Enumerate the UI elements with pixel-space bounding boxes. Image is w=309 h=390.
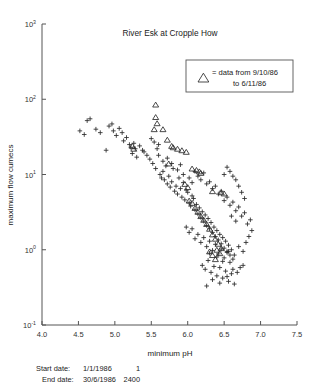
data-point-plus [212, 225, 217, 230]
data-point-plus [150, 161, 155, 166]
data-point-plus [248, 218, 253, 223]
x-tick-label: 7.5 [292, 330, 302, 339]
chart-figure: 4.04.55.05.56.06.57.07.5 10310210110010-… [0, 0, 309, 390]
data-point-plus [231, 200, 236, 205]
data-point-plus [232, 253, 237, 258]
data-point-plus [145, 153, 150, 158]
data-point-plus [117, 126, 122, 131]
data-point-plus [223, 239, 228, 244]
data-point-plus [149, 136, 154, 141]
end-record-value: 2400 [124, 375, 140, 384]
data-point-plus [199, 240, 204, 245]
data-point-plus [172, 189, 177, 194]
data-point-plus [203, 267, 208, 272]
data-point-plus [234, 219, 239, 224]
data-point-plus [209, 270, 214, 275]
data-point-triangle [160, 127, 166, 132]
data-point-plus [155, 146, 160, 151]
data-point-plus [161, 159, 166, 164]
data-point-triangle [189, 166, 195, 171]
data-point-plus [190, 180, 195, 185]
data-point-plus [130, 151, 135, 156]
end-date-value: 30/6/1986 [83, 375, 116, 384]
x-tick-label: 6.5 [219, 330, 229, 339]
series-triangle [129, 102, 227, 262]
data-point-plus [178, 162, 183, 167]
data-point-plus [78, 129, 83, 134]
data-series [78, 102, 255, 288]
data-point-triangle [209, 189, 215, 194]
data-point-plus [229, 214, 234, 219]
data-point-plus [169, 179, 174, 184]
chart-title: River Esk at Cropple How [123, 28, 219, 38]
data-point-plus [220, 276, 225, 281]
data-point-plus [178, 186, 183, 191]
data-point-plus [210, 277, 215, 282]
data-point-plus [207, 239, 212, 244]
x-axis-label: minimum pH [148, 349, 193, 358]
y-axis-ticks: 10310210110010-1 [23, 19, 46, 331]
data-point-plus [187, 230, 192, 235]
y-tick-label: 100 [25, 244, 36, 255]
data-point-plus [171, 166, 176, 171]
data-point-plus [244, 240, 249, 245]
data-point-plus [225, 274, 230, 279]
data-point-plus [174, 184, 179, 189]
data-point-plus [153, 166, 158, 171]
data-point-plus [204, 244, 209, 249]
end-date-label: End date: [42, 375, 74, 384]
data-point-plus [247, 234, 252, 239]
data-point-plus [217, 232, 222, 237]
data-point-plus [165, 182, 170, 187]
data-point-plus [94, 127, 99, 132]
data-point-plus [82, 132, 87, 137]
data-point-plus [213, 184, 218, 189]
data-point-plus [229, 271, 234, 276]
scatter-plot: 4.04.55.05.56.06.57.07.5 10310210110010-… [0, 0, 309, 390]
data-point-plus [242, 210, 247, 215]
x-axis-ticks: 4.04.55.05.56.06.57.07.5 [37, 321, 302, 339]
data-point-plus [215, 274, 220, 279]
data-point-plus [226, 243, 231, 248]
data-point-plus [175, 192, 180, 197]
data-point-triangle [151, 127, 157, 132]
start-date-label: Start date: [36, 364, 70, 373]
data-point-plus [166, 174, 171, 179]
data-point-plus [236, 244, 241, 249]
y-tick-label: 10-1 [23, 320, 36, 331]
data-point-plus [217, 265, 222, 270]
data-point-plus [228, 203, 233, 208]
legend: = data from 9/10/86 to 6/11/86 [186, 60, 293, 92]
data-point-triangle [170, 145, 176, 150]
data-point-plus [222, 172, 227, 177]
data-point-plus [250, 228, 255, 233]
data-point-plus [231, 174, 236, 179]
data-point-plus [204, 182, 209, 187]
data-point-plus [231, 257, 236, 262]
data-point-plus [168, 185, 173, 190]
data-point-plus [184, 225, 189, 230]
data-point-plus [107, 124, 112, 129]
y-tick-label: 101 [25, 169, 36, 180]
data-point-plus [238, 265, 243, 270]
data-point-plus [111, 129, 116, 134]
x-tick-label: 5.0 [110, 330, 120, 339]
data-point-plus [236, 205, 241, 210]
data-point-plus [207, 179, 212, 184]
data-point-plus [212, 264, 217, 269]
data-point-plus [228, 169, 233, 174]
data-point-plus [148, 157, 153, 162]
footer-notes: Start date: 1/1/1986 1 End date: 30/6/19… [36, 364, 140, 384]
x-tick-label: 6.0 [182, 330, 192, 339]
data-point-plus [110, 122, 115, 127]
start-date-value: 1/1/1986 [83, 364, 112, 373]
data-point-plus [241, 249, 246, 254]
data-point-plus [239, 214, 244, 219]
data-point-plus [204, 284, 209, 289]
data-point-plus [190, 226, 195, 231]
data-point-plus [134, 155, 139, 160]
legend-line-2: to 6/11/86 [233, 79, 266, 88]
y-tick-label: 102 [25, 94, 36, 105]
data-point-plus [193, 236, 198, 241]
data-point-plus [242, 196, 247, 201]
